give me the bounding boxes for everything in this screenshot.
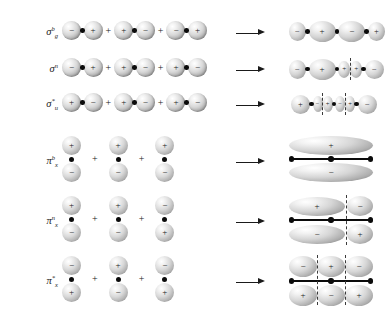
nucleus-dot <box>328 156 333 161</box>
nucleus-dot <box>368 278 373 283</box>
lobe-sign: + <box>356 291 361 300</box>
sigma-lobe: − <box>62 21 81 40</box>
sigma-lobe: − <box>84 93 103 112</box>
sigma-lobe: + <box>166 58 185 77</box>
nucleus-dot <box>69 277 74 282</box>
lobe-sign: + <box>116 261 121 270</box>
row-label-sigma-star-u: σ*u <box>18 98 58 109</box>
mo-lobe: − <box>313 96 323 112</box>
pi-result-mo: + − − + <box>289 196 375 244</box>
transformation-arrow <box>236 100 266 110</box>
plus-operator: + <box>155 26 167 36</box>
p-lobe-top: − <box>155 256 174 275</box>
transformation-arrow <box>236 28 266 38</box>
p-lobe-top: + <box>109 256 128 275</box>
row-label-sigma-b-g: σbg <box>18 26 58 37</box>
pi-lhs-terms: + − + + − + + − <box>62 136 174 182</box>
mo-row-sigma-b-g: σbg − + + + − + − + <box>0 18 381 50</box>
pi-band-top: + − <box>289 196 375 216</box>
nucleus-dot <box>305 29 310 34</box>
p-orbital: + − <box>62 196 81 242</box>
atomic-orbital-pair: + − <box>114 93 155 112</box>
mo-lobe: + <box>309 59 336 80</box>
sigma-result-mo: − + − + <box>289 21 385 42</box>
pi-lobe: + <box>289 285 317 306</box>
lobe-sign: − <box>195 63 200 72</box>
pi-lobe: + <box>289 197 345 216</box>
mo-row-pi-star-x: π*x − + + + − + − + <box>0 254 381 312</box>
lobe-sign: − <box>69 26 74 35</box>
pi-lobe: + <box>289 136 373 155</box>
lobe-sign: − <box>328 168 333 177</box>
pi-band-bottom: − + <box>289 224 375 244</box>
mo-lobe: − <box>365 60 384 79</box>
nucleus-dot <box>328 217 333 222</box>
sigma-result-mo: − + + + − <box>289 58 384 80</box>
orbital-superscript: n <box>55 62 58 69</box>
atomic-orbital-pair: + − <box>166 58 207 77</box>
lobe-sign: + <box>69 288 74 297</box>
nucleus-dot <box>162 217 167 222</box>
plus-operator: + <box>103 26 115 36</box>
sigma-lhs-terms: + − + + − + + − <box>62 93 207 112</box>
mo-lobe: − <box>289 22 306 41</box>
row-label-pi-n-x: πnx <box>18 215 58 226</box>
p-lobe-bottom: − <box>155 163 174 182</box>
lobe-sign: + <box>328 141 333 150</box>
lobe-sign: + <box>326 101 330 108</box>
lobe-sign: − <box>69 168 74 177</box>
p-lobe-top: + <box>109 136 128 155</box>
lobe-sign: + <box>342 66 346 73</box>
lobe-sign: + <box>300 291 305 300</box>
pi-lobe: + <box>347 224 373 244</box>
lobe-sign: − <box>143 63 148 72</box>
atomic-orbital-pair: − + <box>166 21 207 40</box>
lobe-sign: − <box>195 98 200 107</box>
nucleus-dot <box>309 102 314 107</box>
atomic-orbital-pair: + − <box>114 21 155 40</box>
lobe-sign: + <box>69 141 74 150</box>
arrow-shaft <box>236 282 260 283</box>
lobe-sign: − <box>316 101 320 108</box>
mo-lobe: + <box>291 95 310 114</box>
nucleus-dot <box>368 156 373 161</box>
lobe-sign: − <box>116 228 121 237</box>
lobe-sign: + <box>320 65 325 74</box>
atomic-orbital-pair: − + <box>62 21 103 40</box>
sigma-result-mo: + − + − + − <box>291 93 377 115</box>
orbital-subscript: g <box>55 32 58 39</box>
nodal-plane <box>346 195 347 245</box>
orbital-subscript: x <box>55 161 58 168</box>
sigma-lobe: + <box>62 93 81 112</box>
pi-lhs-terms: + − + + − + − + <box>62 196 174 242</box>
mo-row-sigma-n: σn − + + + − + + − <box>0 55 381 87</box>
lobe-sign: + <box>298 100 303 109</box>
lobe-sign: + <box>354 66 358 73</box>
nucleus-dot <box>69 157 74 162</box>
nucleus-dot <box>289 217 294 222</box>
row-label-pi-b-x: πbx <box>18 155 58 166</box>
pi-lobe: − <box>289 256 317 277</box>
lobe-sign: − <box>349 27 354 36</box>
lobe-sign: + <box>173 98 178 107</box>
lobe-sign: + <box>162 288 167 297</box>
sigma-lobe: + <box>114 21 133 40</box>
plus-operator: + <box>155 63 167 73</box>
lobe-sign: − <box>338 101 342 108</box>
lobe-sign: + <box>328 262 333 271</box>
mo-lobe: + <box>309 21 336 42</box>
lobe-sign: + <box>162 141 167 150</box>
atomic-orbital-pair: + − <box>166 93 207 112</box>
lobe-sign: − <box>69 261 74 270</box>
nucleus-dot <box>69 217 74 222</box>
plus-operator: + <box>128 214 156 224</box>
nucleus-dot <box>80 65 85 70</box>
p-lobe-bottom: − <box>109 163 128 182</box>
lobe-sign: + <box>173 63 178 72</box>
arrow-shaft <box>236 105 260 106</box>
pi-lhs-terms: − + + + − + − + <box>62 256 174 302</box>
lobe-sign: + <box>91 63 96 72</box>
pi-band-top: − + − <box>289 256 375 277</box>
nucleus-dot <box>289 278 294 283</box>
lobe-sign: − <box>162 168 167 177</box>
